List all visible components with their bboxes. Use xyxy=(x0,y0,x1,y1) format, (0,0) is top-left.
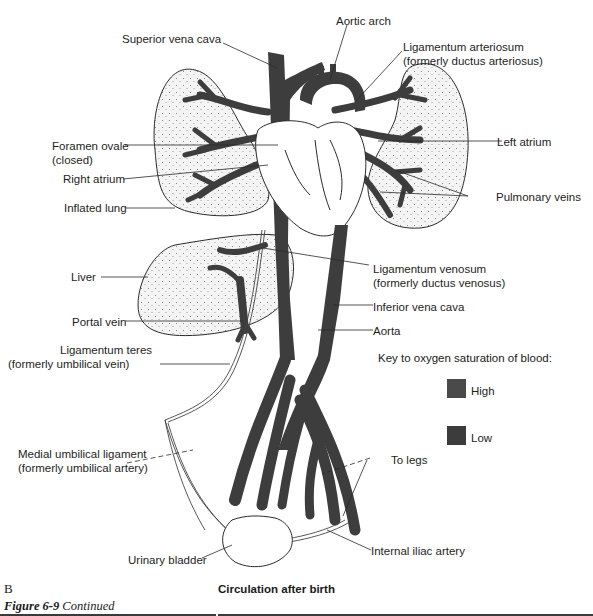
figure-caption-text: Continued xyxy=(62,599,114,613)
label-left-atrium: Left atrium xyxy=(497,135,551,149)
label-to-legs: To legs xyxy=(391,453,427,467)
label-right-atrium: Right atrium xyxy=(63,172,125,186)
label-inferior-vena-cava: Inferior vena cava xyxy=(373,300,464,314)
label-urinary-bladder: Urinary bladder xyxy=(128,553,207,567)
label-liver: Liver xyxy=(71,270,96,284)
label-inflated-lung: Inflated lung xyxy=(64,201,127,215)
label-ligamentum-teres-former: (formerly umbilical vein) xyxy=(8,357,129,371)
label-ligamentum-arteriosum: Ligamentum arteriosum xyxy=(403,40,524,54)
label-portal-vein: Portal vein xyxy=(72,315,126,329)
circulation-diagram xyxy=(0,0,593,616)
figure-caption: Figure 6-9 Continued xyxy=(4,599,114,614)
key-title: Key to oxygen saturation of blood: xyxy=(378,352,552,364)
label-foramen-ovale-closed: (closed) xyxy=(52,153,93,167)
heart xyxy=(256,121,366,236)
label-aortic-arch: Aortic arch xyxy=(336,14,391,28)
label-internal-iliac-artery: Internal iliac artery xyxy=(371,544,465,558)
label-ligamentum-arteriosum-former: (formerly ductus arteriosus) xyxy=(403,54,543,68)
label-medial-umbilical-ligament: Medial umbilical ligament xyxy=(18,447,146,461)
key-label-low: Low xyxy=(471,431,492,445)
figure-title: Circulation after birth xyxy=(218,583,335,595)
label-aorta: Aorta xyxy=(373,324,401,338)
iliac-vessels xyxy=(235,360,355,530)
key-label-high: High xyxy=(471,384,495,398)
label-ligamentum-venosum: Ligamentum venosum xyxy=(373,262,486,276)
label-foramen-ovale: Foramen ovale xyxy=(52,139,129,153)
panel-letter: B xyxy=(4,581,13,597)
label-superior-vena-cava: Superior vena cava xyxy=(122,32,221,46)
key-swatch-low xyxy=(447,426,466,445)
label-medial-umbilical-former: (formerly umbilical artery) xyxy=(18,461,148,475)
label-ligamentum-teres: Ligamentum teres xyxy=(60,343,152,357)
urinary-bladder xyxy=(223,516,293,567)
key-swatch-high xyxy=(447,379,466,398)
label-ligamentum-venosum-former: (formerly ductus venosus) xyxy=(373,276,505,290)
label-pulmonary-veins: Pulmonary veins xyxy=(496,190,581,204)
figure-number: Figure 6-9 xyxy=(4,599,59,613)
